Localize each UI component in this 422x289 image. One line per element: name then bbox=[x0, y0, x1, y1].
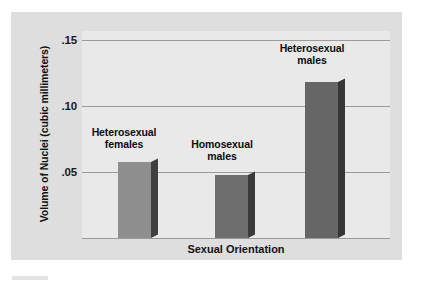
y-axis-title: Volume of Nuclei (cubic millimeters) bbox=[38, 34, 50, 234]
x-axis-title: Sexual Orientation bbox=[82, 243, 390, 255]
bar-chart-figure: .15 .10 .05 Volume of Nuclei (cubic mill… bbox=[0, 0, 422, 289]
bar-label-heterosexual-males: Heterosexual males bbox=[266, 42, 358, 66]
bar-label-heterosexual-females: Heterosexual females bbox=[78, 126, 170, 150]
bar-label-homosexual-males: Homosexual males bbox=[176, 138, 268, 162]
